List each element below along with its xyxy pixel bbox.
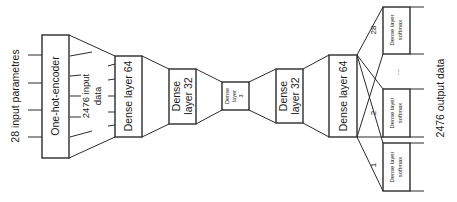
layer-dec-dense-32: Dense layer 32 xyxy=(276,69,303,123)
head-label: softmax xyxy=(397,157,403,177)
layer-label: layer 32 xyxy=(289,77,301,115)
output-lines xyxy=(410,7,424,191)
head-label: softmax xyxy=(397,20,403,40)
layer-label: Dense layer 64 xyxy=(337,61,349,132)
layer-bottleneck-3: Dense layer 3 xyxy=(222,82,249,110)
layer-label: 3 xyxy=(238,94,244,97)
layer-label: layer xyxy=(231,90,237,102)
head-index-1: 1 xyxy=(369,162,378,167)
layer-label: Dense layer 64 xyxy=(122,61,134,132)
ellipsis: ... xyxy=(392,69,401,76)
softmax-head-2: Dense layer softmax xyxy=(383,89,410,137)
layer-label: Dense xyxy=(277,81,289,112)
encoder-label: One-hot-encoder xyxy=(49,56,61,136)
head-label: Dense layer xyxy=(389,14,395,45)
layer-label: layer 32 xyxy=(182,77,194,115)
head-label: Dense layer xyxy=(389,97,395,128)
layer-enc-dense-32: Dense layer 32 xyxy=(169,69,196,124)
head-label: softmax xyxy=(397,103,403,123)
autoencoder-diagram: 28 input parametres One-hot-encoder 2476… xyxy=(0,0,457,202)
layer-label: Dense xyxy=(170,81,182,112)
head-index-28: 28 xyxy=(369,25,378,34)
output-label: 2476 output data xyxy=(434,58,446,137)
head-index-2: 2 xyxy=(369,110,378,115)
softmax-head-1: Dense layer softmax xyxy=(383,143,410,191)
head-label: Dense layer xyxy=(389,151,395,182)
layer-enc-dense-64: Dense layer 64 xyxy=(115,56,142,137)
input-lines xyxy=(28,55,42,137)
encoded-label-line1: 2476 input xyxy=(80,73,91,118)
layer-dec-dense-64: Dense layer 64 xyxy=(329,55,357,137)
layer-label: Dense xyxy=(224,88,230,104)
one-hot-encoder-box: One-hot-encoder xyxy=(42,35,69,158)
encoded-label-line2: data xyxy=(92,86,103,105)
softmax-head-28: Dense layer softmax xyxy=(383,7,410,54)
input-label: 28 input parametres xyxy=(9,49,21,142)
